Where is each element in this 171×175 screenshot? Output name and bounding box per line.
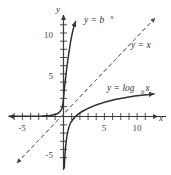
x-tick-label-10: 10 — [133, 123, 143, 133]
y-tick-label-5: 5 — [49, 71, 54, 81]
y-axis-label: y — [55, 4, 60, 14]
x-tick-label-neg5: -5 — [18, 123, 26, 133]
x-axis-label: x — [158, 113, 163, 123]
logarithm-curve-label-text: y = log — [106, 83, 135, 93]
x-tick-label-5: 5 — [102, 123, 107, 133]
y-tick-label-10: 10 — [44, 30, 54, 40]
identity-line-label: y = x — [130, 40, 151, 50]
exponential-curve-label-text: y = b — [83, 15, 104, 25]
logarithm-curve-label-arg: x — [145, 83, 151, 93]
exponential-curve-label-exponent: x — [110, 13, 114, 20]
math-graph-figure: x y -5 5 10 10 5 -5 y = b x y = x y = lo… — [0, 0, 171, 175]
graph-canvas: x y -5 5 10 10 5 -5 y = b x y = x y = lo… — [0, 0, 171, 175]
y-tick-label-neg5: -5 — [46, 150, 54, 160]
